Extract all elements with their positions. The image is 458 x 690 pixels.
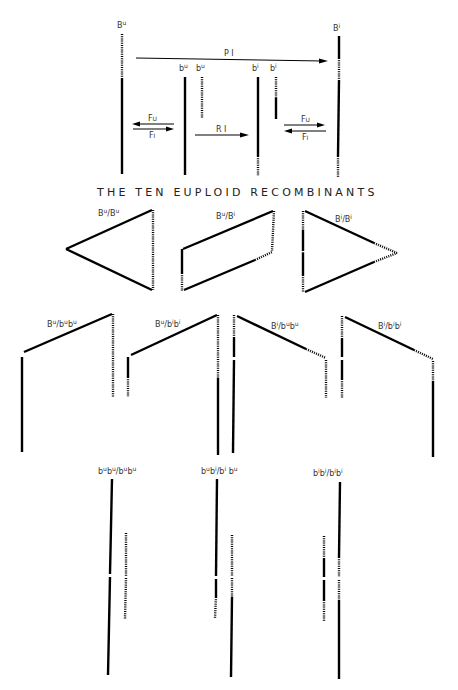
segment <box>306 349 326 358</box>
label-Bu-Bi: Bu/Bi <box>216 210 236 221</box>
recombinant-Bi-Bi: Bi/Bi <box>303 211 397 292</box>
segment <box>216 479 217 576</box>
arrowhead-Fu-left <box>132 122 140 127</box>
label-Bu: Bu <box>117 19 127 30</box>
arrowhead-Fu-right <box>317 123 325 128</box>
recombinant-Bu-bubu: Bu/bubu <box>22 314 113 452</box>
label-bi-1: bi <box>252 62 259 73</box>
label-bi-2: bi <box>270 62 277 73</box>
arrowhead-Fi-right <box>284 129 292 134</box>
label-Bi: Bi <box>333 22 341 33</box>
arrowhead-RI <box>240 133 249 138</box>
segment <box>215 597 216 618</box>
label-Bu-bibi: Bu/bibi <box>155 318 181 329</box>
segment <box>233 360 234 453</box>
segment <box>231 597 232 677</box>
recombinant-Bi-bubu: Bi/bubu <box>233 315 326 453</box>
segment <box>108 577 110 675</box>
diagram-title: THE TEN EUPLOID RECOMBINANTS <box>96 186 378 199</box>
arrow-PI <box>136 58 322 61</box>
segment <box>125 578 126 619</box>
top-section: Bu P I bu bu FU FI R I bi bi <box>117 19 341 177</box>
arrowhead-Fi-left <box>166 127 174 132</box>
label-bibi-bibi: bibi/bibi <box>313 467 343 478</box>
recombinant-bubi-bibu: bubi/bi bu <box>201 465 238 677</box>
segment <box>255 252 272 260</box>
segment <box>374 253 397 262</box>
segment <box>110 479 112 574</box>
label-RI: R I <box>216 125 226 134</box>
label-bubu-bubu: bubu/bubu <box>98 465 136 476</box>
label-Fu-left: FU <box>148 114 157 123</box>
recombinant-Bu-Bi: Bu/Bi <box>182 210 274 291</box>
segment <box>184 260 255 290</box>
recombinant-Bu-Bu: Bu/Bu <box>66 207 153 290</box>
segment <box>339 482 340 557</box>
recombinant-bubu-bubu: bubu/bubu <box>98 465 136 675</box>
segment <box>414 350 433 359</box>
segment <box>374 243 397 253</box>
recombinant-Bi-bibi: Bi/bibi <box>342 316 433 457</box>
label-PI: P I <box>224 49 234 58</box>
label-Fu-right: FU <box>301 115 310 124</box>
label-Bi-Bi: Bi/Bi <box>335 213 352 224</box>
label-bu-2: bu <box>196 62 205 73</box>
segment <box>66 249 152 290</box>
segment <box>305 262 374 292</box>
label-bu-1: bu <box>179 62 188 73</box>
chromosome-Bi-solid-2 <box>338 80 339 156</box>
label-Bi-bubu: Bi/bubu <box>271 320 299 331</box>
label-Bi-bibi: Bi/bibi <box>378 320 402 331</box>
euploid-recombinants-diagram: Bu P I bu bu FU FI R I bi bi <box>0 0 458 690</box>
arrowhead-PI <box>319 59 328 64</box>
label-Bu-Bu: Bu/Bu <box>98 207 120 218</box>
recombinant-Bu-bibi: Bu/bibi <box>128 315 218 455</box>
label-Fi-right: FI <box>302 133 309 142</box>
label-bubi-bibu: bubi/bi bu <box>201 465 238 476</box>
recombinant-bibi-bibi: bibi/bibi <box>313 467 343 679</box>
segment <box>272 211 274 251</box>
label-Bu-bubu: Bu/bubu <box>47 318 77 329</box>
label-Fi-left: FI <box>149 131 156 140</box>
